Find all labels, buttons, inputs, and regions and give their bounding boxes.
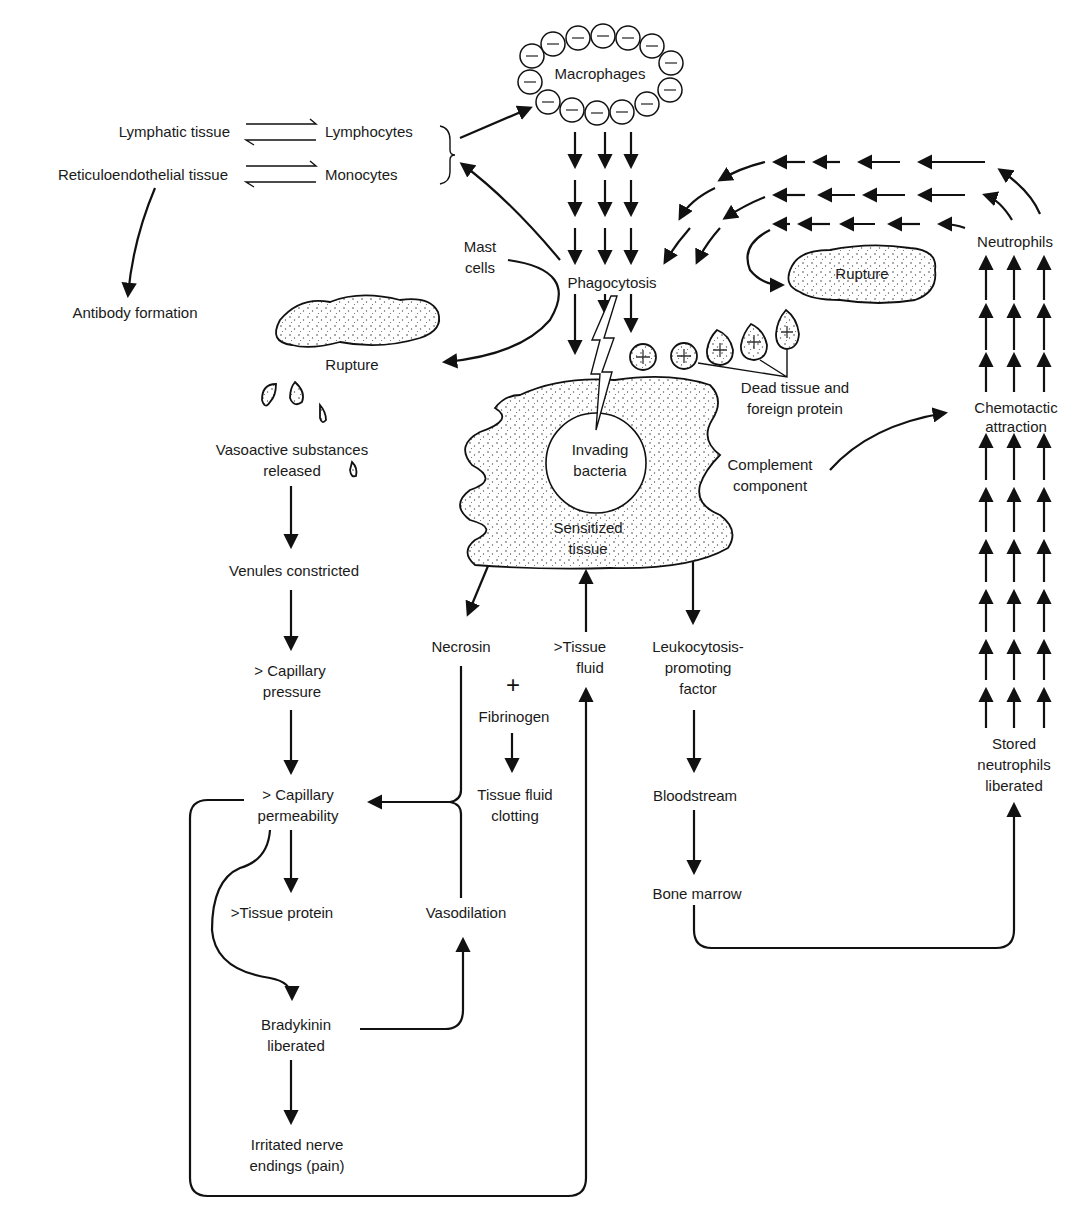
stored-neutrophils-label-2: neutrophils: [977, 756, 1050, 773]
macrophage-to-phagocytosis-arrows: [575, 132, 631, 262]
brace-icon: [440, 126, 455, 184]
dead-tissue-label-2: foreign protein: [747, 400, 843, 417]
necrosin-label: Necrosin: [431, 638, 490, 655]
irritated-nerve-label-2: endings (pain): [249, 1157, 344, 1174]
arrow-tissue-to-necrosin: [468, 566, 488, 614]
brace-necrosin-vasodilation: [450, 666, 461, 898]
tissue-fluid-clotting-label-2: clotting: [491, 807, 539, 824]
stored-neutrophils-label-1: Stored: [992, 735, 1036, 752]
rupture-right-blob: Rupture: [788, 245, 935, 303]
vasoactive-label-1: Vasoactive substances: [216, 441, 368, 458]
lymphatic-group: Lymphatic tissue Reticuloendothelial tis…: [58, 108, 560, 321]
leukocytosis-label-1: Leukocytosis-: [652, 638, 744, 655]
capillary-pressure-label-1: > Capillary: [254, 662, 326, 679]
invading-bacteria-label-2: bacteria: [573, 462, 627, 479]
arrow-permeability-loop-to-tissue-fluid: [190, 690, 586, 1196]
bradykinin-label-2: liberated: [267, 1037, 325, 1054]
arrow-to-antibody: [128, 188, 155, 295]
arrow-complement-to-chemotactic: [830, 413, 945, 470]
sensitized-tissue-blob: Invading bacteria Sensitized tissue: [460, 377, 733, 569]
complement-label-1: Complement: [727, 456, 813, 473]
plus-sign: +: [506, 671, 520, 698]
dead-tissue-label-1: Dead tissue and: [741, 379, 849, 396]
complement-label-2: component: [733, 477, 808, 494]
leukocytosis-label-3: factor: [679, 680, 717, 697]
vasoactive-label-2: released: [263, 462, 321, 479]
rupture-right-label: Rupture: [835, 265, 888, 282]
sensitized-tissue-label-1: Sensitized: [553, 519, 622, 536]
tissue-fluid-clotting-label-1: Tissue fluid: [477, 786, 552, 803]
sensitized-tissue-label-2: tissue: [568, 540, 607, 557]
mast-cells-label-1: Mast: [464, 238, 497, 255]
inflammation-diagram: Lymphatic tissue Reticuloendothelial tis…: [0, 0, 1080, 1213]
lymphatic-tissue-label: Lymphatic tissue: [119, 123, 230, 140]
chemotactic-label-2: attraction: [985, 418, 1047, 435]
chemotactic-label-1: Chemotactic: [974, 399, 1058, 416]
antibody-formation-label: Antibody formation: [72, 304, 197, 321]
reticuloendothelial-tissue-label: Reticuloendothelial tissue: [58, 166, 228, 183]
vasodilation-label: Vasodilation: [426, 904, 507, 921]
monocytes-label: Monocytes: [325, 166, 398, 183]
mast-cells-label-2: cells: [465, 259, 495, 276]
tissue-fluid-label-1: >Tissue: [554, 638, 606, 655]
arrow-bradykinin-to-vasodilation: [360, 940, 463, 1029]
venules-constricted-label: Venules constricted: [229, 562, 359, 579]
macrophages-label: Macrophages: [555, 65, 646, 82]
equilibrium-arrow-icon: [246, 119, 316, 187]
arrow-to-macrophages: [460, 108, 530, 138]
rupture-left-label: Rupture: [325, 356, 378, 373]
invading-bacteria-label-1: Invading: [572, 441, 629, 458]
arrow-bone-marrow-to-stored-neutrophils: [694, 805, 1014, 948]
arrow-mast-cells-to-rupture: [445, 260, 559, 362]
fibrinogen-label: Fibrinogen: [479, 708, 550, 725]
capillary-permeability-label-2: permeability: [258, 807, 339, 824]
lymphocytes-label: Lymphocytes: [325, 123, 413, 140]
bradykinin-label-1: Bradykinin: [261, 1016, 331, 1033]
leukocytosis-label-2: promoting: [665, 659, 732, 676]
capillary-pressure-label-2: pressure: [263, 683, 321, 700]
tissue-protein-label: >Tissue protein: [231, 904, 333, 921]
bone-marrow-label: Bone marrow: [652, 885, 741, 902]
dead-tissue-cells: [630, 310, 799, 377]
neutrophil-up-arrows: [986, 258, 1044, 728]
bloodstream-label: Bloodstream: [653, 787, 737, 804]
tissue-fluid-label-2: fluid: [576, 659, 604, 676]
phagocytosis-label: Phagocytosis: [567, 274, 656, 291]
stored-neutrophils-label-3: liberated: [985, 777, 1043, 794]
neutrophils-label: Neutrophils: [977, 233, 1053, 250]
capillary-permeability-label-1: > Capillary: [262, 786, 334, 803]
macrophages-cluster: Macrophages: [518, 24, 683, 125]
irritated-nerve-label-1: Irritated nerve: [251, 1136, 344, 1153]
